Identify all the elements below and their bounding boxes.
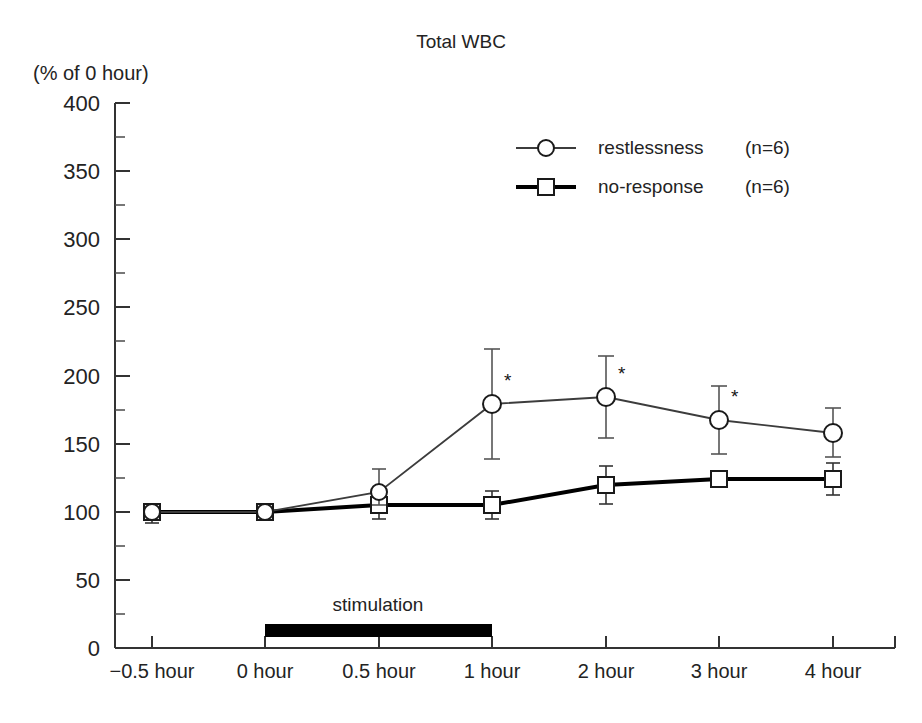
- y-tick-label-0: 0: [22, 636, 100, 662]
- x-tick-label-1-hour: 1 hour: [427, 660, 557, 683]
- y-tick-label-150: 150: [22, 432, 100, 458]
- stimulation-label: stimulation: [288, 594, 468, 616]
- y-major-ticks: [115, 103, 130, 648]
- y-tick-label-200: 200: [22, 364, 100, 390]
- chart-figure: Total WBC (% of 0 hour): [0, 0, 922, 723]
- y-tick-label-50: 50: [22, 568, 100, 594]
- legend-sample-restlessness: [516, 140, 576, 156]
- legend-label-restlessness: restlessness: [598, 137, 704, 159]
- y-tick-label-300: 300: [22, 227, 100, 253]
- x-ticks: [152, 636, 895, 648]
- legend-count-no-response: (n=6): [745, 176, 790, 198]
- x-tick-label-2-hour: 2 hour: [541, 660, 671, 683]
- x-tick-label-3-hour: 3 hour: [654, 660, 784, 683]
- legend-label-no-response: no-response: [598, 176, 704, 198]
- stimulation-bar: [265, 624, 492, 637]
- y-tick-label-250: 250: [22, 295, 100, 321]
- legend-sample-no-response: [516, 179, 576, 195]
- y-tick-label-400: 400: [22, 91, 100, 117]
- y-tick-label-100: 100: [22, 500, 100, 526]
- significance-star-3-hour: *: [731, 386, 738, 408]
- significance-star-2-hour: *: [618, 363, 625, 385]
- significance-star-1-hour: *: [504, 370, 511, 392]
- y-tick-label-350: 350: [22, 159, 100, 185]
- x-tick-label-4-hour: 4 hour: [768, 660, 898, 683]
- legend-count-restlessness: (n=6): [745, 137, 790, 159]
